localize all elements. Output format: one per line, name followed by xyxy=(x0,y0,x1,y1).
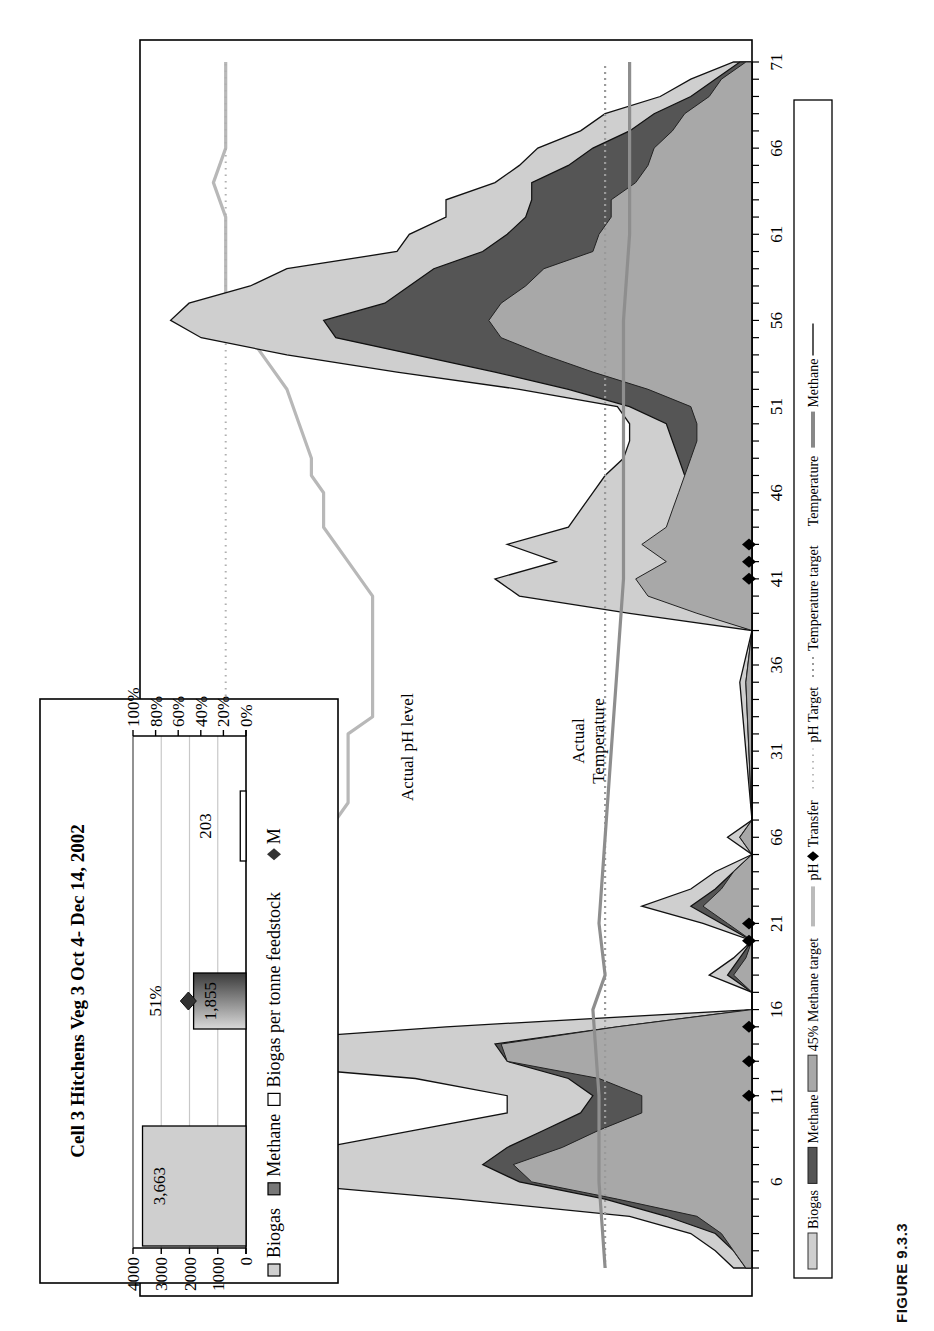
x-tick-label: 61 xyxy=(767,226,786,243)
x-tick-label: 56 xyxy=(767,312,786,329)
figure-label: FIGURE 9.3.3 xyxy=(893,1223,910,1323)
inset-chart: Cell 3 Hitchens Veg 3 Oct 4- Dec 14, 200… xyxy=(40,687,338,1291)
x-tick-label: 51 xyxy=(767,398,786,415)
legend-label: Transfer xyxy=(806,800,821,847)
legend-label: Temperature target xyxy=(806,545,821,651)
annotation-actual-temperature-line2: Temperature xyxy=(589,698,608,784)
x-axis-ticks xyxy=(752,62,759,1268)
x-tick-label: 16 xyxy=(767,1001,786,1018)
legend-label: pH xyxy=(806,863,821,880)
inset-marker-label: 51% xyxy=(146,985,165,1016)
inset-legend-label: Methane xyxy=(264,1114,284,1177)
inset-bar-value-label: 203 xyxy=(196,813,215,839)
legend-label: pH Target xyxy=(806,687,821,743)
inset-bar-biogas-per-tonne-feedstock xyxy=(240,791,246,861)
x-tick-label: 46 xyxy=(767,484,786,501)
inset-y2-tick-label: 20% xyxy=(214,696,233,727)
legend-label: Methane xyxy=(806,359,821,408)
x-axis-tick-labels: 611162166313641465156616671 xyxy=(767,54,786,1187)
annotation-actual-ph: Actual pH level xyxy=(398,693,417,801)
inset-legend-label: Biogas xyxy=(264,1208,284,1258)
inset-legend-label: M xyxy=(264,828,284,844)
inset-bar-value-label: 1,855 xyxy=(201,982,220,1020)
legend-label: 45% Methane target xyxy=(806,938,821,1051)
inset-y2-tick-label: 0% xyxy=(237,704,256,727)
inset-legend-swatch xyxy=(268,1093,280,1105)
inset-y2-tick-label: 40% xyxy=(192,696,211,727)
inset-legend-swatch xyxy=(268,1183,280,1195)
inset-y-tick-label: 1000 xyxy=(209,1257,228,1291)
inset-legend: BiogasMethaneBiogas per tonne feedstockM xyxy=(264,828,284,1276)
legend-swatch-methane xyxy=(808,1147,817,1183)
inset-y-tick-label: 2000 xyxy=(181,1257,200,1291)
inset-title: Cell 3 Hitchens Veg 3 Oct 4- Dec 14, 200… xyxy=(67,824,88,1158)
legend-label: Temperature xyxy=(806,456,821,527)
x-tick-label: 71 xyxy=(767,54,786,71)
inset-y2-tick-label: 100% xyxy=(124,687,143,727)
x-tick-label: 21 xyxy=(767,915,786,932)
inset-y2-tick-label: 80% xyxy=(147,696,166,727)
x-tick-label: 41 xyxy=(767,570,786,587)
x-tick-label: 66 xyxy=(767,140,786,157)
figure-canvas: 611162166313641465156616671 Actual pH le… xyxy=(0,0,934,1331)
inset-legend-label: Biogas per tonne feedstock xyxy=(264,892,284,1087)
x-tick-label: 31 xyxy=(767,743,786,760)
annotation-actual-temperature-line1: Actual xyxy=(569,718,588,764)
legend-label: Biogas xyxy=(806,1190,821,1229)
x-tick-label: 66 xyxy=(767,829,786,846)
legend-swatch-biogas xyxy=(808,1233,817,1269)
inset-y-tick-label: 3000 xyxy=(152,1257,171,1291)
x-tick-label: 36 xyxy=(767,657,786,674)
main-legend: BiogasMethane45% Methane targetpHTransfe… xyxy=(794,100,832,1278)
inset-y2-tick-label: 60% xyxy=(169,696,188,727)
inset-y-tick-label: 0 xyxy=(237,1257,256,1266)
inset-bar-value-label: 3,663 xyxy=(150,1167,169,1205)
inset-legend-swatch xyxy=(268,1264,280,1276)
legend-label: Methane xyxy=(806,1094,821,1143)
x-tick-label: 11 xyxy=(767,1088,786,1104)
legend-swatch-methane-target xyxy=(808,1055,817,1091)
x-tick-label: 6 xyxy=(767,1178,786,1187)
inset-y-tick-label: 4000 xyxy=(124,1257,143,1291)
